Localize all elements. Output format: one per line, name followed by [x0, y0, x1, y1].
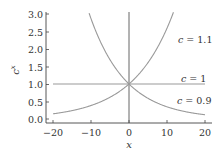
y-axis-label-sup: x	[9, 65, 17, 69]
y-tick-label: 0.5	[28, 97, 43, 108]
y-tick-label: 3.0	[28, 9, 43, 20]
label-c-1-1: c = 1.1	[178, 34, 212, 45]
x-tick-label: −20	[43, 127, 63, 138]
curve-c-1-1	[53, 12, 173, 114]
x-tick-label: 10	[161, 127, 173, 138]
y-axis-label: cx	[9, 65, 21, 75]
y-tick-labels: 3.0 2.5 2.0 1.5 1.0 0.5 0.0	[28, 9, 43, 125]
y-tick-label: 1.5	[28, 62, 43, 73]
svg-text:cx: cx	[9, 65, 21, 75]
label-c-1: c = 1	[181, 73, 206, 84]
x-axis-label: x	[126, 139, 132, 150]
chart-canvas: 3.0 2.5 2.0 1.5 1.0 0.5 0.0 −20 −10 0 10…	[0, 0, 222, 157]
y-tick-label: 2.5	[28, 27, 43, 38]
x-tick-labels: −20 −10 0 10 20	[43, 127, 211, 138]
y-tick-label: 2.0	[28, 44, 43, 55]
x-tick-label: −10	[81, 127, 101, 138]
y-tick-label: 0.0	[28, 114, 43, 125]
label-c-0-9: c = 0.9	[177, 95, 211, 106]
x-tick-label: 0	[126, 127, 132, 138]
x-tick-label: 20	[199, 127, 211, 138]
y-tick-label: 1.0	[28, 79, 43, 90]
